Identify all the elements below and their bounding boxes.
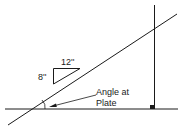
run-label: 12''	[61, 57, 75, 67]
rise-label: 8''	[38, 72, 47, 82]
callout-line-2: Plate	[96, 98, 117, 108]
arrowhead-icon	[49, 104, 57, 108]
roof-pitch-diagram: 12'' 8'' Angle at Plate	[0, 0, 187, 129]
pitch-triangle	[54, 69, 81, 85]
right-angle-marker	[150, 105, 155, 109]
callout-arrow-line	[53, 95, 96, 106]
callout-line-1: Angle at	[96, 87, 130, 97]
